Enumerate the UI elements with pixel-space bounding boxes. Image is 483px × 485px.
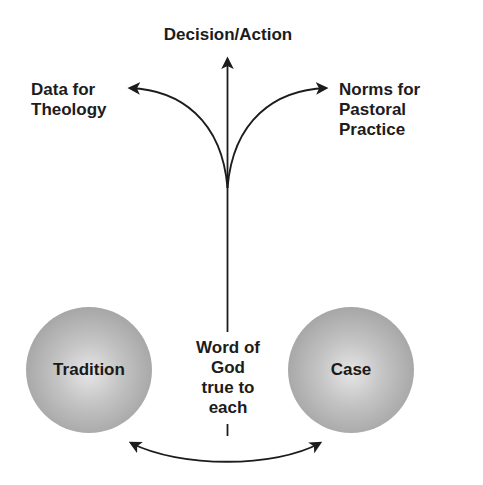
- case-label: Case: [331, 360, 372, 380]
- tradition-circle: Tradition: [26, 307, 152, 433]
- decision-action-label: Decision/Action: [128, 25, 328, 45]
- tradition-case-arrow: [131, 443, 320, 462]
- pastoral-theology-diagram: Decision/Action Data for Theology Norms …: [0, 0, 483, 485]
- theology-arrow: [130, 88, 228, 188]
- data-for-theology-label: Data for Theology: [31, 80, 107, 120]
- norms-pastoral-practice-label: Norms for Pastoral Practice: [339, 80, 420, 140]
- case-circle: Case: [288, 307, 414, 433]
- tradition-label: Tradition: [53, 360, 125, 380]
- word-of-god-label: Word of God true to each: [168, 338, 288, 418]
- pastoral-practice-arrow: [228, 88, 327, 188]
